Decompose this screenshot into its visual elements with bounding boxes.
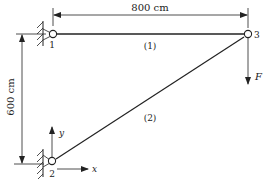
dimension-label-vertical: 600 cm <box>5 78 16 116</box>
horizontal-dimension: 800 cm <box>53 2 248 28</box>
dimension-label-horizontal: 800 cm <box>131 2 169 13</box>
node-3-pin <box>244 30 251 37</box>
y-axis-label: y <box>58 128 65 138</box>
node-1-pin <box>49 30 56 37</box>
vertical-dimension: 600 cm <box>5 34 46 164</box>
node-2-label: 2 <box>49 169 55 179</box>
force-label: F <box>254 71 263 82</box>
x-axis-label: x <box>92 164 97 174</box>
node-2-pin <box>48 157 55 164</box>
truss-diagram: 800 cm 600 cm y x F <box>0 0 273 194</box>
coordinate-axes: y x <box>52 127 97 174</box>
load-force: F <box>248 38 263 84</box>
member-2-label: (2) <box>144 113 157 123</box>
member-1-label: (1) <box>144 41 157 51</box>
node-1-label: 1 <box>49 40 55 50</box>
member-2 <box>56 37 244 159</box>
node-3-label: 3 <box>254 30 260 40</box>
